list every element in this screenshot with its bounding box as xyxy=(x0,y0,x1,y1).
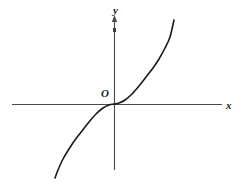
origin-label: O xyxy=(101,88,109,99)
math-graph-figure: y x O xyxy=(0,0,242,196)
y-axis-tick-mark xyxy=(113,28,116,32)
x-axis-label: x xyxy=(226,100,232,111)
y-axis-label: y xyxy=(113,5,118,16)
y-axis-arrowhead-icon xyxy=(112,15,117,22)
coordinate-plot xyxy=(0,0,242,196)
